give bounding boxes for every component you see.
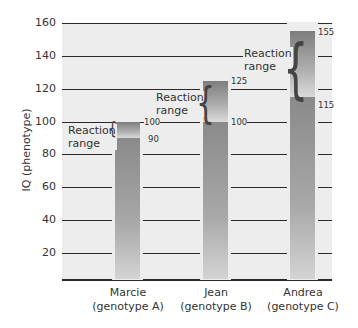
value-label-high: 100 [144, 117, 160, 127]
value-label-high: 155 [318, 27, 334, 37]
brace-icon: { [196, 79, 215, 128]
y-tick: 40 [28, 214, 56, 226]
category-genotype: (genotype C) [258, 300, 348, 314]
value-label-high: 125 [231, 76, 247, 86]
category-name: Andrea [258, 286, 348, 300]
brace-icon: { [283, 30, 308, 106]
value-label-low: 90 [148, 134, 159, 144]
label-line: range [68, 137, 116, 150]
y-tick: 140 [28, 50, 56, 62]
y-tick: 120 [28, 83, 56, 95]
bar-base-segment [290, 97, 315, 279]
value-label-low: 115 [318, 100, 334, 110]
bar-marcie [115, 122, 140, 279]
value-label-low: 100 [231, 117, 247, 127]
bar-base-segment [203, 122, 228, 279]
category-label-jean: Jean (genotype B) [171, 286, 261, 314]
y-axis-label: IQ (phenotype) [20, 109, 33, 192]
bar-base-segment [115, 138, 140, 279]
category-label-marcie: Marcie (genotype A) [83, 286, 173, 314]
y-tick: 20 [28, 247, 56, 259]
category-label-andrea: Andrea (genotype C) [258, 286, 348, 314]
reaction-range-segment [115, 122, 140, 138]
category-genotype: (genotype B) [171, 300, 261, 314]
brace-icon: { [108, 119, 117, 138]
category-genotype: (genotype A) [83, 300, 173, 314]
category-name: Jean [171, 286, 261, 300]
category-name: Marcie [83, 286, 173, 300]
y-tick: 160 [28, 17, 56, 29]
